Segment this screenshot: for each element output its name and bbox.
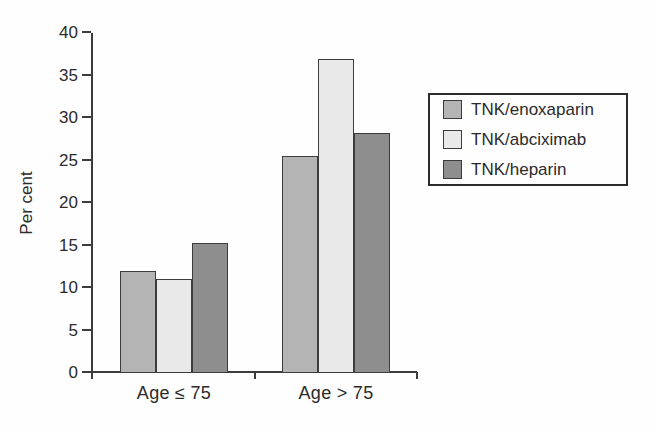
y-axis-line [91,33,93,379]
legend-item: TNK/abciximab [443,128,626,152]
y-tick-label: 30 [32,108,78,128]
bar-tnk-heparin [192,243,228,373]
bar-tnk-enoxaparin [282,156,318,373]
x-category-label: Age ≤ 75 [93,382,255,404]
y-tick-label: 35 [32,66,78,86]
y-tick-label: 15 [32,236,78,256]
bar-tnk-abciximab [318,59,354,374]
y-tick-label: 40 [32,23,78,43]
y-tick-mark [82,31,91,33]
y-tick-mark [82,286,91,288]
x-category-label: Age > 75 [255,382,417,404]
y-tick-mark [82,371,91,373]
legend-label: TNK/abciximab [471,129,586,151]
y-tick-mark [82,329,91,331]
bar-tnk-heparin [354,133,390,373]
legend-swatch-icon [443,130,462,149]
y-tick-mark [82,244,91,246]
x-tick-mark [416,372,418,379]
x-tick-mark [254,372,256,379]
y-tick-label: 10 [32,278,78,298]
bar-chart-figure: Per cent 0510152025303540Age ≤ 75Age > 7… [0,0,657,429]
y-tick-label: 25 [32,151,78,171]
legend-swatch-icon [443,160,462,179]
legend: TNK/enoxaparinTNK/abciximabTNK/heparin [428,93,628,186]
y-tick-mark [82,74,91,76]
legend-item: TNK/enoxaparin [443,98,626,122]
legend-swatch-icon [443,100,462,119]
legend-label: TNK/enoxaparin [471,99,594,121]
plot-area: 0510152025303540Age ≤ 75Age > 75 [0,0,657,429]
y-tick-label: 20 [32,193,78,213]
y-tick-mark [82,159,91,161]
y-tick-label: 5 [32,321,78,341]
y-tick-mark [82,116,91,118]
y-tick-mark [82,201,91,203]
legend-label: TNK/heparin [471,159,566,181]
bar-tnk-abciximab [156,279,192,373]
bar-tnk-enoxaparin [120,271,156,373]
y-tick-label: 0 [32,363,78,383]
legend-item: TNK/heparin [443,158,626,182]
